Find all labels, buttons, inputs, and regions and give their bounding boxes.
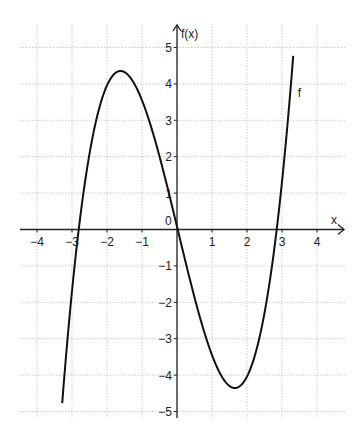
function-plot: −4−3−2−11234−5−4−3−2−112345 x f(x) f 0: [0, 0, 361, 442]
curve-label-f: f: [298, 86, 302, 100]
x-tick-label: 2: [244, 235, 251, 249]
y-tick-label: 4: [165, 77, 172, 91]
y-tick-label: −4: [158, 369, 172, 383]
y-tick-label: −5: [158, 405, 172, 419]
y-tick-label: 3: [165, 114, 172, 128]
y-axis-label: f(x): [181, 27, 198, 41]
x-tick-label: 4: [314, 235, 321, 249]
grid: [20, 24, 345, 418]
x-tick-label: 3: [279, 235, 286, 249]
origin-label: 0: [165, 214, 172, 228]
y-tick-label: −2: [158, 296, 172, 310]
x-axis-label: x: [331, 213, 337, 227]
y-tick-label: 5: [165, 41, 172, 55]
y-tick-label: −1: [158, 259, 172, 273]
x-tick-label: −4: [30, 235, 44, 249]
y-tick-label: −3: [158, 332, 172, 346]
x-tick-label: −2: [100, 235, 114, 249]
x-tick-label: −1: [135, 235, 149, 249]
x-tick-label: 1: [209, 235, 216, 249]
y-tick-label: 2: [165, 150, 172, 164]
